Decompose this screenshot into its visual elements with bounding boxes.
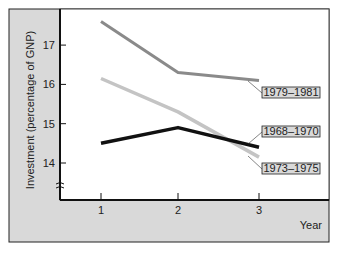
y-tick-label: 14	[43, 157, 55, 169]
legend-label: 1968–1970	[263, 125, 318, 137]
x-tick-label: 2	[175, 204, 181, 216]
y-tick-label: 17	[43, 39, 55, 51]
legend-label: 1973–1975	[263, 162, 318, 174]
y-tick-label: 15	[43, 118, 55, 130]
x-tick-label: 1	[98, 204, 104, 216]
legend-label: 1979–1981	[263, 86, 318, 98]
investment-line-chart: 14151617 123 Investment (percentage of G…	[0, 0, 338, 256]
x-tick-label: 3	[256, 204, 262, 216]
y-axis-label: Investment (percentage of GNP)	[24, 31, 36, 189]
x-axis-label: Year	[300, 219, 323, 231]
y-tick-label: 16	[43, 78, 55, 90]
